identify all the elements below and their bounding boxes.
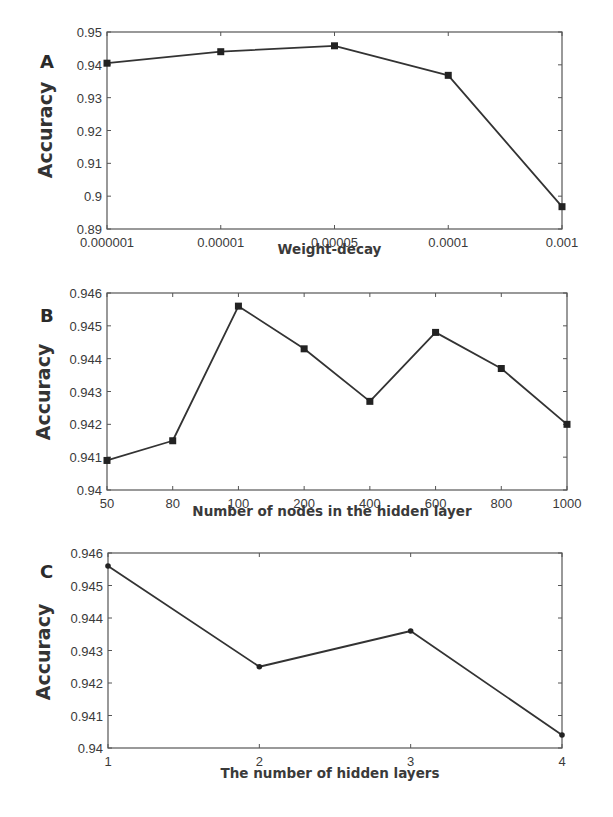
data-point-marker bbox=[366, 398, 373, 405]
data-point-marker bbox=[432, 329, 439, 336]
data-point-marker bbox=[498, 365, 505, 372]
x-tick-label: 0.0001 bbox=[428, 235, 468, 250]
x-tick-label: 80 bbox=[165, 496, 179, 511]
data-point-marker bbox=[564, 421, 571, 428]
data-point-marker bbox=[257, 664, 263, 670]
x-tick-label: 50 bbox=[100, 496, 114, 511]
x-tick-label: 1000 bbox=[553, 496, 582, 511]
panel-c: 0.940.9410.9420.9430.9440.9450.9461234CA… bbox=[0, 530, 613, 817]
data-point-marker bbox=[559, 732, 565, 738]
y-tick-label: 0.92 bbox=[77, 124, 102, 139]
x-tick-label: 0.00001 bbox=[197, 235, 244, 250]
chart-c-plot: 0.940.9410.9420.9430.9440.9450.9461234CA… bbox=[0, 530, 613, 817]
x-tick-label: 1 bbox=[104, 754, 111, 769]
chart-b-plot: 0.940.9410.9420.9430.9440.9450.946508010… bbox=[0, 260, 613, 540]
data-point-marker bbox=[445, 72, 452, 79]
data-point-marker bbox=[408, 628, 414, 634]
y-tick-label: 0.944 bbox=[69, 352, 102, 367]
x-axis-title: Number of nodes in the hidden layer bbox=[192, 503, 472, 519]
y-tick-label: 0.945 bbox=[70, 579, 103, 594]
y-tick-label: 0.91 bbox=[77, 156, 102, 171]
plot-frame bbox=[107, 32, 562, 229]
x-axis-title: The number of hidden layers bbox=[221, 765, 440, 781]
x-tick-label: 4 bbox=[558, 754, 565, 769]
data-point-marker bbox=[169, 437, 176, 444]
y-tick-label: 0.942 bbox=[69, 417, 102, 432]
y-tick-label: 0.944 bbox=[70, 611, 103, 626]
data-point-marker bbox=[104, 457, 111, 464]
y-tick-label: 0.941 bbox=[69, 450, 102, 465]
plot-frame bbox=[108, 553, 562, 748]
y-tick-label: 0.946 bbox=[70, 546, 103, 561]
y-axis-title: Accuracy bbox=[32, 603, 54, 700]
data-point-marker bbox=[105, 563, 111, 569]
y-tick-label: 0.946 bbox=[69, 286, 102, 301]
y-tick-label: 0.941 bbox=[70, 709, 103, 724]
panel-a: 0.890.90.910.920.930.940.950.0000010.000… bbox=[0, 0, 613, 270]
data-point-marker bbox=[104, 60, 111, 67]
panel-letter: B bbox=[40, 305, 54, 326]
accuracy-line bbox=[108, 566, 562, 735]
chart-a-plot: 0.890.90.910.920.930.940.950.0000010.000… bbox=[0, 0, 613, 270]
x-tick-label: 0.000001 bbox=[80, 235, 134, 250]
x-tick-label: 0.001 bbox=[546, 235, 579, 250]
y-tick-label: 0.945 bbox=[69, 319, 102, 334]
y-tick-label: 0.93 bbox=[77, 91, 102, 106]
accuracy-line bbox=[107, 46, 562, 207]
y-tick-label: 0.94 bbox=[77, 58, 102, 73]
data-point-marker bbox=[217, 48, 224, 55]
x-tick-label: 800 bbox=[490, 496, 512, 511]
data-point-marker bbox=[331, 42, 338, 49]
y-tick-label: 0.943 bbox=[70, 644, 103, 659]
y-tick-label: 0.943 bbox=[69, 385, 102, 400]
y-tick-label: 0.9 bbox=[84, 189, 102, 204]
panel-letter: C bbox=[40, 561, 53, 582]
y-tick-label: 0.942 bbox=[70, 676, 103, 691]
x-axis-title: Weight-decay bbox=[278, 241, 382, 257]
panel-letter: A bbox=[40, 51, 54, 72]
data-point-marker bbox=[301, 345, 308, 352]
data-point-marker bbox=[235, 303, 242, 310]
panel-b: 0.940.9410.9420.9430.9440.9450.946508010… bbox=[0, 260, 613, 540]
y-axis-title: Accuracy bbox=[34, 81, 56, 178]
y-tick-label: 0.95 bbox=[77, 25, 102, 40]
plot-frame bbox=[107, 293, 567, 490]
y-axis-title: Accuracy bbox=[32, 343, 54, 440]
y-tick-label: 0.94 bbox=[78, 741, 103, 756]
data-point-marker bbox=[559, 203, 566, 210]
y-tick-label: 0.94 bbox=[77, 483, 102, 498]
